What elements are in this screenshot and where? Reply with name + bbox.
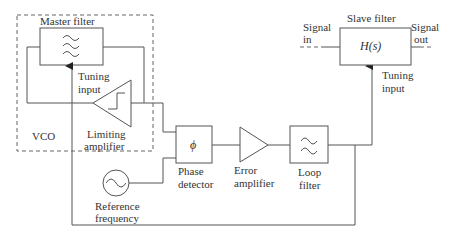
transfer-function: H(s) (359, 39, 381, 53)
loop-filter-label-2: filter (299, 179, 321, 191)
master-filter-label: Master filter (40, 15, 95, 27)
signal-in-label-2: in (303, 33, 312, 45)
reference-wire (129, 158, 176, 183)
phase-symbol: ϕ (190, 138, 196, 152)
reference-label-2: frequency (95, 212, 139, 224)
vco-label: VCO (32, 130, 55, 142)
loop-filter-block (290, 126, 328, 163)
reference-label-1: Reference (95, 200, 140, 212)
phase-detector-label-2: detector (178, 178, 214, 190)
slave-tuning-label-1: Tuning (382, 69, 414, 81)
error-amplifier (240, 127, 268, 162)
master-slave-tuning-diagram: VCO Master filter Tuning input Limiting … (0, 0, 453, 235)
error-amplifier-label-1: Error (234, 164, 258, 176)
master-tuning-label-2: input (78, 83, 101, 95)
slave-tuning-label-2: input (382, 82, 405, 94)
limiting-amplifier-label-2: amplifier (84, 140, 125, 152)
slave-filter-label: Slave filter (347, 12, 396, 24)
limiting-amplifier-label-1: Limiting (87, 128, 126, 140)
error-amplifier-label-2: amplifier (234, 177, 275, 189)
loop-filter-label-1: Loop (298, 166, 322, 178)
slave-tuning-wire (328, 66, 372, 145)
master-tuning-label-1: Tuning (78, 70, 110, 82)
signal-out-label-2: out (414, 33, 428, 45)
signal-out-label-1: Signal (411, 21, 439, 33)
signal-in-label-1: Signal (303, 21, 331, 33)
phase-detector-label-1: Phase (178, 165, 204, 177)
